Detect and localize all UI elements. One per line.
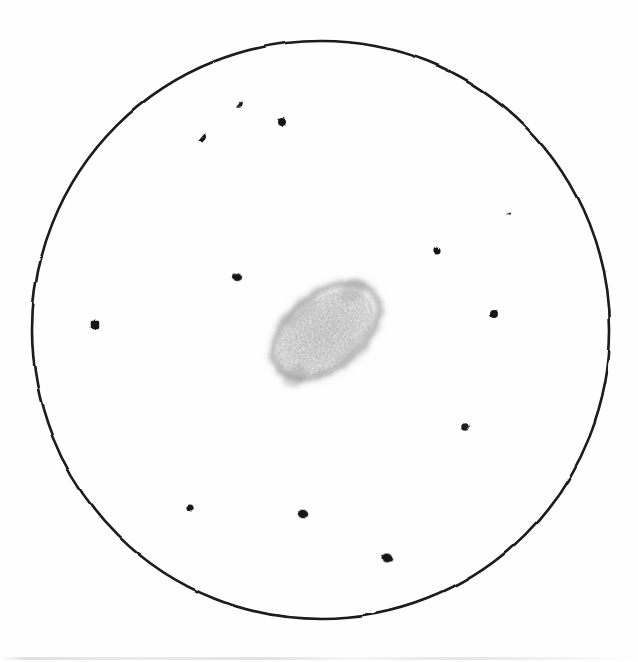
star-marker — [433, 247, 440, 254]
star-marker — [91, 321, 99, 329]
star-marker — [461, 423, 468, 430]
star-marker — [186, 504, 193, 511]
star-marker — [490, 310, 498, 318]
eyepiece-sketch-page — [0, 0, 638, 662]
star-marker — [278, 118, 286, 126]
sketch-canvas — [0, 0, 638, 662]
scanner-edge-line — [0, 657, 638, 660]
